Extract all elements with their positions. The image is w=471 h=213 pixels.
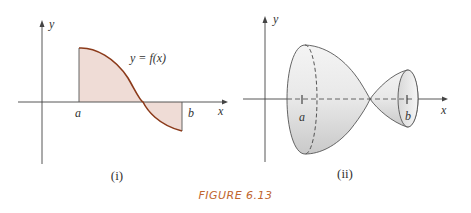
- y-axis-arrow-icon: [263, 16, 268, 23]
- curve-label: y = f(x): [129, 51, 166, 65]
- y-axis-label: y: [272, 12, 279, 26]
- b-label: b: [405, 109, 411, 123]
- panel-i: y x y = f(x) a b (i): [18, 17, 228, 183]
- b-label: b: [188, 106, 194, 120]
- solid-left-lobe: [287, 45, 370, 154]
- x-axis-arrow-icon: [442, 97, 448, 102]
- a-label: a: [299, 110, 305, 124]
- a-label: a: [75, 106, 81, 120]
- figure-canvas: y x y = f(x) a b (i) y x a b (ii): [0, 0, 471, 213]
- y-axis-label: y: [48, 17, 55, 31]
- x-axis-label: x: [217, 104, 224, 118]
- x-axis-label: x: [440, 103, 447, 117]
- figure-caption: FIGURE 6.13: [0, 189, 471, 202]
- panel-ii-label: (ii): [337, 166, 353, 181]
- panel-ii: y x a b (ii): [243, 12, 448, 181]
- panel-i-label: (i): [111, 168, 123, 183]
- y-axis-arrow-icon: [40, 20, 45, 27]
